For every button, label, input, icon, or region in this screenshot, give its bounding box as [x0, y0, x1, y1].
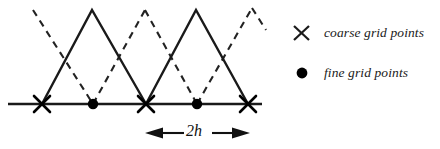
dot-marker [192, 99, 202, 109]
fine-hat-segment-4 [197, 8, 252, 104]
legend-markers [294, 26, 309, 78]
figure-container: 2h coarse grid points fine grid points [0, 0, 440, 149]
coarse-hat-2 [146, 10, 248, 104]
fine-hat-segment-5 [252, 8, 266, 30]
legend-dot-marker [297, 68, 308, 79]
legend-x-marker [294, 26, 309, 40]
spacing-arrow-right-head [232, 128, 250, 139]
dot-marker [88, 99, 98, 109]
coarse-hat-1 [42, 10, 146, 104]
coarse-grid-hat-functions [42, 10, 248, 104]
spacing-arrow-left-head [145, 128, 163, 139]
spacing-label: 2h [186, 122, 202, 140]
legend-label-fine-grid-points: fine grid points [324, 65, 408, 81]
legend-label-coarse-grid-points: coarse grid points [324, 25, 424, 41]
